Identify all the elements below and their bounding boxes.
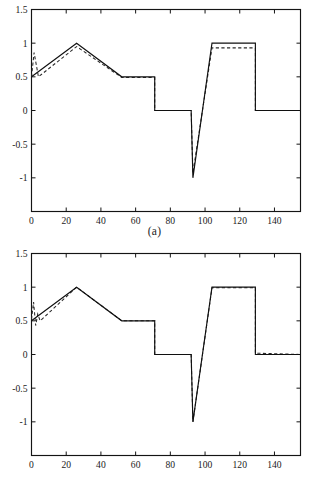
x-tick-label: 0: [29, 215, 34, 226]
y-tick-label: -1: [20, 416, 28, 427]
y-tick-label: -0.5: [12, 383, 27, 394]
signal-line-original: [32, 43, 301, 178]
x-tick-label: 60: [131, 459, 141, 470]
x-tick-label: 0: [29, 459, 34, 470]
signal-line-original: [32, 287, 301, 422]
y-tick-label: 1: [23, 38, 28, 49]
y-tick-label: 0: [23, 105, 28, 116]
y-tick-label: 1: [23, 282, 28, 293]
x-tick-label: 120: [233, 215, 248, 226]
plot-area-b: 020406080100120140-1-0.500.511.5: [0, 244, 309, 495]
y-tick-label: -0.5: [12, 139, 27, 150]
x-tick-label: 60: [131, 215, 141, 226]
x-tick-label: 100: [198, 215, 213, 226]
y-tick-label: 0.5: [16, 71, 28, 82]
signal-line-reconstruction: [32, 47, 301, 174]
panel-caption-a: (a): [0, 225, 309, 237]
x-tick-label: 20: [61, 215, 71, 226]
x-tick-label: 80: [166, 459, 176, 470]
x-tick-label: 40: [96, 459, 106, 470]
x-tick-label: 20: [61, 459, 71, 470]
x-tick-label: 80: [166, 215, 176, 226]
figure-two-panel-signal-plots: 020406080100120140-1-0.500.511.5 (a) 020…: [0, 0, 309, 495]
chart-panel-a: 020406080100120140-1-0.500.511.5 (a): [0, 0, 309, 248]
x-tick-label: 120: [233, 459, 248, 470]
y-tick-label: -1: [20, 172, 28, 183]
plot-area-a: 020406080100120140-1-0.500.511.5: [0, 0, 309, 248]
chart-panel-b: 020406080100120140-1-0.500.511.5 (b): [0, 244, 309, 495]
x-tick-label: 100: [198, 459, 213, 470]
x-tick-label: 40: [96, 215, 106, 226]
y-tick-label: 0: [23, 349, 28, 360]
x-tick-label: 140: [267, 215, 282, 226]
y-tick-label: 1.5: [16, 4, 28, 15]
y-tick-label: 0.5: [16, 315, 28, 326]
y-tick-label: 1.5: [16, 248, 28, 259]
x-tick-label: 140: [267, 459, 282, 470]
